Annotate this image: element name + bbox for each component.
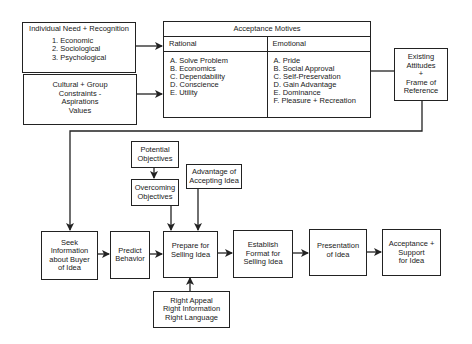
text-line: Behavior (115, 255, 145, 264)
list-item: F. Pleasure + Recreation (274, 97, 371, 105)
text-line: Objectives (137, 155, 172, 164)
text-line: of Idea (58, 264, 81, 273)
text-line: of Idea (327, 251, 350, 260)
seek-information-box: Seek Information about Buyer of Idea (41, 231, 98, 280)
rational-column: Rational A. Solve Problem B. Economics C… (164, 37, 267, 117)
text-line: Accepting Idea (189, 177, 239, 186)
text-line: Selling Idea (171, 251, 210, 260)
text-line: Objectives (137, 193, 172, 202)
acceptance-motives-title: Acceptance Motives (164, 22, 370, 37)
individual-need-title: Individual Need + Recognition (29, 25, 129, 34)
presentation-box: Presentation of Idea (309, 229, 367, 276)
text-line: Values (69, 107, 91, 116)
emotional-column: Emotional A. Pride B. Social Approval C.… (267, 37, 371, 117)
establish-format-box: Establish Format for Selling Idea (233, 230, 293, 278)
prepare-selling-box: Prepare for Selling Idea (163, 231, 218, 278)
individual-need-list: 1. Economic 2. Sociological 3. Psycholog… (52, 37, 106, 63)
acceptance-support-box: Acceptance + Support for Idea (382, 229, 441, 276)
potential-objectives-box: Potential Objectives (131, 141, 179, 168)
advantage-box: Advantage of Accepting Idea (186, 164, 242, 189)
right-appeal-box: Right Appeal Right Information Right Lan… (153, 291, 230, 328)
text-line: Reference (404, 87, 439, 96)
list-item: E. Utility (170, 89, 267, 97)
cultural-group-box: Cultural + Group Constraints - Aspiratio… (23, 74, 137, 125)
emotional-header: Emotional (268, 37, 371, 52)
overcoming-objectives-box: Overcoming Objectives (131, 179, 179, 206)
rational-header: Rational (164, 37, 267, 52)
list-item: 3. Psychological (52, 54, 106, 63)
text-line: Right Language (165, 314, 218, 323)
acceptance-motives-table: Acceptance Motives Rational A. Solve Pro… (163, 21, 371, 118)
individual-need-box: Individual Need + Recognition 1. Economi… (22, 22, 136, 73)
existing-attitudes-box: Existing Attitudes + Frame of Reference (394, 48, 448, 101)
text-line: for Idea (399, 257, 424, 266)
predict-behavior-box: Predict Behavior (110, 231, 150, 279)
text-line: Selling Idea (243, 258, 282, 267)
